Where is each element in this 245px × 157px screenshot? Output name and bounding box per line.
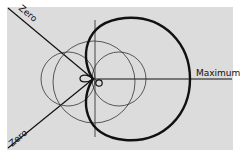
label-zero-lower: Zero	[7, 127, 30, 148]
label-maximum: Maximum	[196, 68, 240, 78]
label-zero-upper: Zero	[17, 3, 40, 24]
radiation-pattern-diagram: Maximum Zero Zero	[0, 0, 245, 157]
small-circle-right	[96, 80, 102, 86]
center-circle	[53, 41, 135, 123]
